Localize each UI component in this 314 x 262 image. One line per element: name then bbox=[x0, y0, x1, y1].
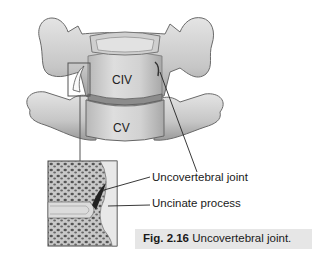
detail-inset bbox=[48, 161, 117, 246]
callout-uncovertebral-joint: Uncovertebral joint bbox=[152, 171, 248, 183]
callout-uncinate-process: Uncinate process bbox=[152, 197, 241, 209]
vertebra-civ bbox=[39, 18, 214, 105]
label-cv: CV bbox=[113, 121, 130, 135]
vertebrae-illustration bbox=[0, 0, 314, 262]
caption-number: Fig. 2.16 bbox=[143, 232, 189, 244]
caption-title: Uncovertebral joint. bbox=[192, 232, 291, 244]
figure-caption: Fig. 2.16 Uncovertebral joint. bbox=[135, 229, 312, 249]
label-civ: CIV bbox=[112, 73, 132, 87]
